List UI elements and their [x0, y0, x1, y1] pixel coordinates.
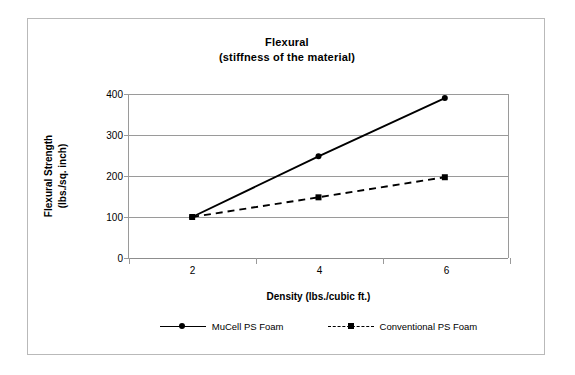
legend-label-mucell: MuCell PS Foam	[212, 321, 284, 332]
y-axis-title-line1: Flexural Strength	[42, 94, 56, 258]
xtick-mark-2	[383, 258, 384, 264]
legend-label-conventional: Conventional PS Foam	[380, 321, 478, 332]
ytick-label-300: 300	[106, 130, 123, 141]
ytick-label-100: 100	[106, 212, 123, 223]
xtick-mark-1	[256, 258, 257, 264]
legend-item-conventional[interactable]: Conventional PS Foam	[328, 321, 478, 332]
ytick-label-400: 400	[106, 89, 123, 100]
data-point-square[interactable]	[316, 194, 322, 200]
y-axis-title: Flexural Strength (lbs./sq. inch)	[42, 94, 76, 258]
plot-area: 400 300 200 100 0 2 4 6	[128, 94, 509, 258]
y-axis-title-line2: (lbs./sq. inch)	[56, 94, 70, 258]
ytick-label-200: 200	[106, 171, 123, 182]
legend-item-mucell[interactable]: MuCell PS Foam	[160, 321, 284, 332]
chart-legend: MuCell PS Foam Conventional PS Foam	[128, 321, 509, 332]
series-mucell-ps-foam	[189, 95, 448, 220]
x-axis-title: Density (lbs./cubic ft.)	[128, 291, 509, 302]
xtick-label-6: 6	[444, 265, 450, 276]
chart-title: Flexural (stiffness of the material)	[28, 35, 546, 65]
chart-title-sub: (stiffness of the material)	[28, 50, 546, 65]
series-layer	[129, 94, 508, 258]
data-point-circle[interactable]	[442, 95, 448, 101]
chart-frame: Flexural (stiffness of the material) 400…	[27, 18, 545, 355]
legend-marker-circle-icon	[160, 322, 206, 332]
gridline-0	[129, 258, 508, 259]
data-point-square[interactable]	[189, 214, 195, 220]
xtick-label-4: 4	[317, 265, 323, 276]
data-point-square[interactable]	[442, 174, 448, 180]
data-point-circle[interactable]	[316, 153, 322, 159]
ytick-label-0: 0	[117, 253, 123, 264]
xtick-mark-left	[129, 258, 130, 264]
legend-marker-square-icon	[328, 322, 374, 332]
chart-title-main: Flexural	[265, 36, 309, 48]
xtick-mark-right	[510, 258, 511, 264]
xtick-label-2: 2	[190, 265, 196, 276]
series-conventional-ps-foam	[189, 174, 448, 220]
